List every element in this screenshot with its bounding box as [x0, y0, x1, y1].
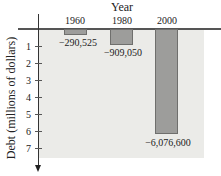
- bar-1980: [110, 29, 133, 45]
- y-tick-label: 3: [26, 75, 31, 86]
- category-label: 2000: [157, 15, 177, 26]
- y-tick: [35, 63, 42, 64]
- y-axis-title: Debt (millions of dollars): [4, 37, 19, 159]
- category-label: 1960: [65, 15, 85, 26]
- y-tick: [35, 148, 42, 149]
- y-tick-label: 7: [26, 143, 31, 154]
- value-label: −909,050: [104, 47, 142, 58]
- bar-2000: [155, 29, 178, 134]
- bar-1960: [64, 29, 87, 35]
- category-label: 1980: [112, 15, 132, 26]
- value-label: −6,076,600: [145, 137, 191, 148]
- y-tick: [35, 46, 42, 47]
- down-arrow-icon: [35, 165, 41, 172]
- value-label: −290,525: [59, 37, 97, 48]
- y-tick-label: 5: [26, 109, 31, 120]
- y-tick: [35, 131, 42, 132]
- y-tick-label: 1: [26, 41, 31, 52]
- y-tick: [35, 80, 42, 81]
- y-axis-line: [38, 14, 39, 167]
- y-tick: [35, 97, 42, 98]
- y-tick-label: 2: [26, 58, 31, 69]
- y-tick-label: 4: [26, 92, 31, 103]
- x-axis-title-text: Year: [111, 0, 133, 15]
- y-tick-label: 6: [26, 126, 31, 137]
- y-tick: [35, 114, 42, 115]
